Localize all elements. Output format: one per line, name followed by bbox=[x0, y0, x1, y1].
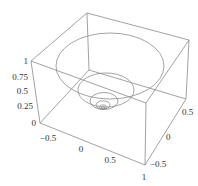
back-left-bottom-edge bbox=[40, 70, 89, 123]
y-tick: −0.5 bbox=[150, 159, 167, 169]
z-tick: 0.75 bbox=[12, 72, 28, 82]
left-vertical-edge bbox=[31, 61, 40, 123]
z-axis-labels: 1 0.75 0.5 0.25 0 bbox=[12, 56, 36, 128]
y-axis-labels: 0.5 0 −0.5 bbox=[150, 107, 194, 169]
top-left-edge bbox=[31, 13, 87, 61]
ring-6 bbox=[101, 107, 105, 109]
x-tick: −0.5 bbox=[40, 133, 57, 143]
x-axis-labels: −0.5 0 0.5 1 bbox=[40, 133, 146, 182]
x-tick: 1 bbox=[142, 172, 147, 182]
z-tick: 0.25 bbox=[17, 101, 33, 111]
z-tick: 1 bbox=[24, 56, 29, 66]
x-tick: 0 bbox=[79, 144, 84, 154]
x-tick: 0.5 bbox=[104, 155, 116, 165]
spiral-curve bbox=[56, 33, 164, 110]
back-vertical-edge bbox=[87, 13, 89, 70]
3d-plot: 1 0.75 0.5 0.25 0 −0.5 0 0.5 1 0.5 0 −0.… bbox=[0, 0, 198, 186]
right-vertical-edge bbox=[186, 40, 189, 99]
z-tick: 0 bbox=[32, 118, 37, 128]
top-back-edge bbox=[87, 13, 189, 40]
ring-2 bbox=[78, 73, 134, 107]
y-tick: 0.5 bbox=[182, 107, 194, 117]
ring-1 bbox=[56, 33, 164, 99]
z-tick: 0.5 bbox=[17, 86, 29, 96]
y-tick: 0 bbox=[166, 132, 171, 142]
front-vertical-edge bbox=[145, 103, 146, 165]
bottom-front-edge bbox=[40, 123, 145, 165]
